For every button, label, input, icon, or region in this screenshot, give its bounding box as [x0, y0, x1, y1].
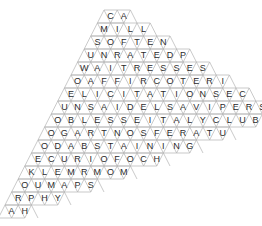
- grid-cell[interactable]: B: [249, 114, 262, 127]
- grid-cell[interactable]: S: [209, 88, 222, 101]
- grid-cell[interactable]: R: [137, 75, 150, 88]
- grid-cell[interactable]: T: [97, 127, 110, 140]
- grid-cell[interactable]: I: [124, 75, 137, 88]
- grid-cell[interactable]: R: [111, 49, 124, 62]
- grid-cell[interactable]: R: [130, 62, 143, 75]
- grid-cell[interactable]: O: [45, 127, 58, 140]
- grid-cell[interactable]: I: [130, 140, 143, 153]
- grid-cell[interactable]: M: [64, 166, 77, 179]
- puzzle-row[interactable]: OUMAPS: [18, 179, 97, 192]
- puzzle-row[interactable]: MILL: [97, 23, 150, 36]
- grid-cell[interactable]: T: [117, 62, 130, 75]
- puzzle-row[interactable]: UNRATEDP: [84, 49, 190, 62]
- grid-cell[interactable]: A: [117, 140, 130, 153]
- grid-cell[interactable]: T: [157, 114, 170, 127]
- grid-cell[interactable]: S: [196, 62, 209, 75]
- grid-cell[interactable]: O: [183, 88, 196, 101]
- grid-cell[interactable]: L: [223, 114, 236, 127]
- grid-cell[interactable]: U: [84, 49, 97, 62]
- grid-cell[interactable]: O: [38, 140, 51, 153]
- grid-cell[interactable]: S: [163, 101, 176, 114]
- grid-cell[interactable]: C: [104, 10, 117, 23]
- grid-cell[interactable]: E: [91, 114, 104, 127]
- puzzle-row[interactable]: AH: [5, 205, 31, 218]
- grid-cell[interactable]: N: [196, 88, 209, 101]
- grid-cell[interactable]: I: [170, 88, 183, 101]
- grid-cell[interactable]: O: [163, 75, 176, 88]
- grid-cell[interactable]: E: [64, 88, 77, 101]
- grid-cell[interactable]: E: [51, 166, 64, 179]
- grid-cell[interactable]: L: [183, 114, 196, 127]
- grid-cell[interactable]: F: [111, 153, 124, 166]
- grid-cell[interactable]: Y: [196, 114, 209, 127]
- puzzle-row[interactable]: ODABSTAINING: [38, 140, 196, 153]
- grid-cell[interactable]: C: [104, 88, 117, 101]
- grid-cell[interactable]: S: [84, 101, 97, 114]
- puzzle-row[interactable]: KLEMRMOM: [25, 166, 131, 179]
- grid-cell[interactable]: O: [51, 114, 64, 127]
- grid-cell[interactable]: T: [130, 36, 143, 49]
- grid-cell[interactable]: B: [64, 114, 77, 127]
- grid-cell[interactable]: A: [91, 62, 104, 75]
- grid-cell[interactable]: R: [12, 192, 25, 205]
- grid-cell[interactable]: A: [58, 179, 71, 192]
- grid-cell[interactable]: R: [84, 127, 97, 140]
- grid-cell[interactable]: I: [91, 88, 104, 101]
- grid-cell[interactable]: C: [45, 153, 58, 166]
- grid-cell[interactable]: I: [117, 88, 130, 101]
- grid-cell[interactable]: A: [5, 205, 18, 218]
- grid-cell[interactable]: S: [91, 36, 104, 49]
- grid-cell[interactable]: T: [104, 140, 117, 153]
- grid-cell[interactable]: S: [157, 62, 170, 75]
- puzzle-row[interactable]: SOFTEN: [91, 36, 170, 49]
- grid-cell[interactable]: A: [117, 10, 130, 23]
- grid-cell[interactable]: A: [71, 127, 84, 140]
- grid-cell[interactable]: S: [84, 179, 97, 192]
- grid-cell[interactable]: C: [137, 153, 150, 166]
- grid-cell[interactable]: N: [71, 101, 84, 114]
- grid-cell[interactable]: Y: [51, 192, 64, 205]
- grid-cell[interactable]: R: [203, 75, 216, 88]
- puzzle-row[interactable]: ELICITATIONSEC: [64, 88, 249, 101]
- grid-cell[interactable]: W: [78, 62, 91, 75]
- grid-cell[interactable]: R: [242, 101, 255, 114]
- grid-cell[interactable]: U: [216, 127, 229, 140]
- grid-cell[interactable]: D: [51, 140, 64, 153]
- grid-cell[interactable]: E: [229, 101, 242, 114]
- grid-cell[interactable]: F: [111, 75, 124, 88]
- word-puzzle-board[interactable]: CAMILLSOFTENUNRATEDPWAITRESSESOAFFIRCOTE…: [0, 0, 262, 226]
- grid-cell[interactable]: T: [177, 75, 190, 88]
- grid-cell[interactable]: S: [104, 114, 117, 127]
- grid-cell[interactable]: A: [64, 140, 77, 153]
- grid-cell[interactable]: T: [137, 49, 150, 62]
- grid-cell[interactable]: I: [104, 62, 117, 75]
- grid-cell[interactable]: E: [150, 49, 163, 62]
- grid-cell[interactable]: I: [111, 101, 124, 114]
- grid-cell[interactable]: S: [256, 101, 262, 114]
- grid-cell[interactable]: A: [190, 127, 203, 140]
- grid-cell[interactable]: H: [38, 192, 51, 205]
- grid-cell[interactable]: I: [157, 140, 170, 153]
- grid-cell[interactable]: I: [203, 101, 216, 114]
- grid-cell[interactable]: S: [170, 62, 183, 75]
- grid-cell[interactable]: O: [104, 36, 117, 49]
- puzzle-row[interactable]: ECURIOFOCH: [31, 153, 163, 166]
- grid-cell[interactable]: A: [170, 114, 183, 127]
- grid-cell[interactable]: R: [176, 127, 189, 140]
- puzzle-row[interactable]: WAITRESSES: [78, 62, 210, 75]
- grid-cell[interactable]: T: [130, 88, 143, 101]
- grid-cell[interactable]: E: [190, 75, 203, 88]
- puzzle-row[interactable]: OAFFIRCOTERI: [71, 75, 229, 88]
- grid-cell[interactable]: M: [97, 23, 110, 36]
- grid-cell[interactable]: K: [25, 166, 38, 179]
- grid-cell[interactable]: T: [203, 127, 216, 140]
- grid-cell[interactable]: P: [216, 101, 229, 114]
- grid-cell[interactable]: L: [124, 23, 137, 36]
- grid-cell[interactable]: U: [58, 153, 71, 166]
- grid-cell[interactable]: U: [236, 114, 249, 127]
- grid-cell[interactable]: P: [71, 179, 84, 192]
- grid-cell[interactable]: A: [84, 75, 97, 88]
- grid-cell[interactable]: M: [117, 166, 130, 179]
- grid-cell[interactable]: I: [144, 114, 157, 127]
- grid-cell[interactable]: P: [177, 49, 190, 62]
